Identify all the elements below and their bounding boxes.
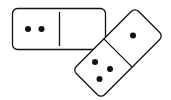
pip <box>39 26 45 32</box>
horizontal-domino <box>13 9 106 50</box>
pip <box>107 66 113 72</box>
dominoes-illustration <box>0 0 171 100</box>
pip <box>92 59 98 65</box>
pip <box>130 33 136 39</box>
pip <box>97 76 103 82</box>
pip <box>25 26 31 32</box>
